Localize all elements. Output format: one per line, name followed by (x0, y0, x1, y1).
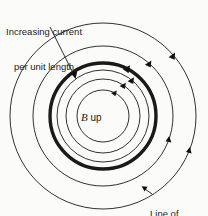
label-line-of-force-line1: Line of (150, 208, 204, 216)
label-increasing-current: Increasing current per unit length (6, 3, 82, 95)
label-increasing-current-line2: per unit length (6, 61, 82, 73)
arrowhead-circle-5-upper (145, 60, 151, 67)
b-symbol: B (81, 111, 88, 123)
arrowhead-circle-3 (128, 77, 134, 84)
b-up-text: up (88, 112, 102, 123)
label-b-up: B up (81, 112, 102, 124)
label-increasing-current-line1: Increasing current (6, 26, 82, 38)
physics-figure: Increasing current per unit length Line … (0, 0, 208, 216)
arrowhead-circle-5-lower (166, 136, 172, 142)
label-line-of-electric-force: Line of electric force (150, 185, 204, 216)
